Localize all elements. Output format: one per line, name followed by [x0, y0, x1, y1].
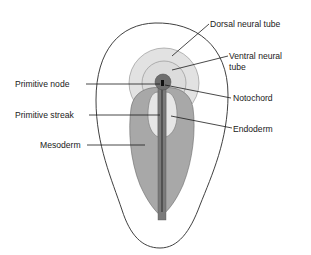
notochord-head: [161, 80, 164, 86]
label-primitive-streak: Primitive streak: [15, 110, 74, 120]
label-endoderm: Endoderm: [233, 124, 273, 134]
label-notochord: Notochord: [233, 93, 273, 103]
label-ventral-neural-tube-line1: Ventral neural: [229, 51, 282, 61]
label-primitive-node: Primitive node: [15, 79, 69, 89]
label-ventral-neural-tube-line2: tube: [229, 62, 246, 72]
label-mesoderm: Mesoderm: [40, 140, 81, 150]
label-dorsal-neural-tube: Dorsal neural tube: [210, 19, 280, 29]
